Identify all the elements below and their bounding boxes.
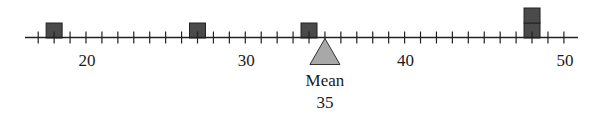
dot-plot: 20304050 Mean 35 [0, 0, 611, 121]
mean-value: 35 [316, 93, 333, 112]
mean-fulcrum-triangle-icon [310, 39, 340, 65]
axis-tick-label: 50 [556, 51, 573, 70]
mean-marker: Mean 35 [306, 39, 345, 113]
mean-label: Mean [306, 71, 345, 90]
axis-tick-label: 40 [397, 51, 414, 70]
axis-tick-label: 30 [238, 51, 255, 70]
data-box [524, 8, 540, 23]
axis-tick-label: 20 [78, 51, 95, 70]
